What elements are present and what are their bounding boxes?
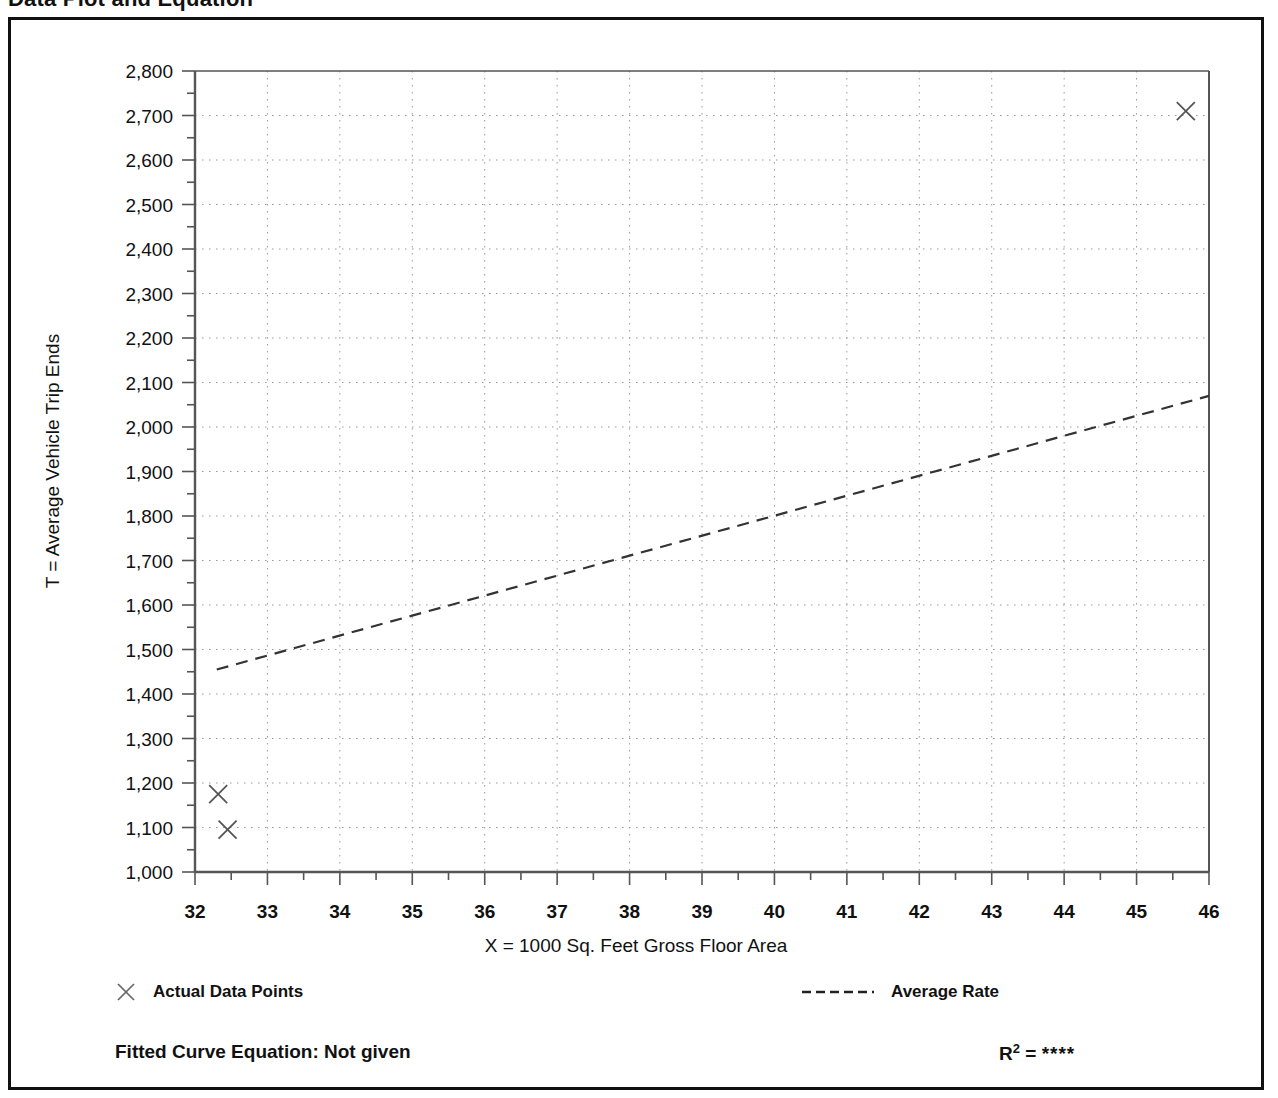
x-tick-label: 38 <box>619 901 640 922</box>
y-tick-label: 1,500 <box>125 640 173 661</box>
x-tick-label: 42 <box>909 901 930 922</box>
y-tick-label: 2,200 <box>125 328 173 349</box>
x-tick-label: 32 <box>184 901 205 922</box>
legend-label-average-rate: Average Rate <box>891 982 999 1002</box>
x-tick-label: 34 <box>329 901 351 922</box>
x-tick-label: 40 <box>764 901 785 922</box>
y-tick-label: 1,300 <box>125 729 173 750</box>
y-tick-label: 1,600 <box>125 595 173 616</box>
x-tick-label: 45 <box>1126 901 1148 922</box>
x-tick-label: 43 <box>981 901 1002 922</box>
x-axis-title: X = 1000 Sq. Feet Gross Floor Area <box>11 935 1261 957</box>
data-point-marker <box>209 785 227 803</box>
r2-equals: = <box>1020 1043 1042 1064</box>
tick-marks-layer <box>182 71 1209 885</box>
average-rate-line <box>217 396 1209 670</box>
y-tick-label: 1,700 <box>125 551 173 572</box>
y-tick-label: 1,000 <box>125 862 173 883</box>
y-tick-label: 2,000 <box>125 417 173 438</box>
y-tick-label: 2,700 <box>125 106 173 127</box>
x-tick-label: 44 <box>1054 901 1076 922</box>
scatter-plot: 1,0001,1001,2001,3001,4001,5001,6001,700… <box>11 20 1261 980</box>
y-tick-label: 1,100 <box>125 818 173 839</box>
x-tick-label: 35 <box>402 901 424 922</box>
x-tick-label: 39 <box>691 901 712 922</box>
y-tick-label: 1,900 <box>125 462 173 483</box>
r2-stars: **** <box>1042 1043 1076 1064</box>
y-tick-label: 1,800 <box>125 506 173 527</box>
legend-item-actual-data-points: Actual Data Points <box>115 975 303 1009</box>
figure-frame: 1,0001,1001,2001,3001,4001,5001,6001,700… <box>8 17 1264 1090</box>
y-tick-label: 2,100 <box>125 373 173 394</box>
tick-labels-layer: 1,0001,1001,2001,3001,4001,5001,6001,700… <box>125 61 1219 922</box>
legend-label-actual-data-points: Actual Data Points <box>153 982 303 1002</box>
y-tick-label: 1,400 <box>125 684 173 705</box>
legend-row-equation: Fitted Curve Equation: Not given R2 = **… <box>11 1037 1261 1077</box>
r2-exponent: 2 <box>1013 1041 1020 1056</box>
legend-block: Actual Data Points Average Rate Fitted C… <box>11 975 1261 1087</box>
chart-region: 1,0001,1001,2001,3001,4001,5001,6001,700… <box>11 20 1261 980</box>
y-tick-label: 2,300 <box>125 284 173 305</box>
data-point-marker <box>219 821 237 839</box>
y-tick-label: 2,800 <box>125 61 173 82</box>
dashed-line-icon <box>801 985 875 999</box>
x-tick-label: 37 <box>547 901 568 922</box>
grid-layer <box>195 71 1209 872</box>
y-tick-label: 2,400 <box>125 239 173 260</box>
r2-symbol: R <box>999 1043 1013 1064</box>
fitted-curve-equation: Fitted Curve Equation: Not given <box>115 1041 411 1063</box>
x-marker-icon <box>115 981 137 1003</box>
r-squared-value: R2 = **** <box>999 1041 1075 1065</box>
y-axis-title: T = Average Vehicle Trip Ends <box>42 311 64 611</box>
x-tick-label: 33 <box>257 901 278 922</box>
data-point-marker <box>1177 102 1195 120</box>
data-series-layer <box>209 102 1209 839</box>
page-title: Data Plot and Equation <box>8 0 253 12</box>
y-tick-label: 2,500 <box>125 195 173 216</box>
x-tick-label: 46 <box>1198 901 1219 922</box>
x-tick-label: 41 <box>836 901 858 922</box>
legend-item-average-rate: Average Rate <box>801 975 999 1009</box>
page-header: Data Plot and Equation <box>0 0 1278 16</box>
y-tick-label: 2,600 <box>125 150 173 171</box>
legend-row-symbols: Actual Data Points Average Rate <box>11 975 1261 1015</box>
x-tick-label: 36 <box>474 901 495 922</box>
y-tick-label: 1,200 <box>125 773 173 794</box>
